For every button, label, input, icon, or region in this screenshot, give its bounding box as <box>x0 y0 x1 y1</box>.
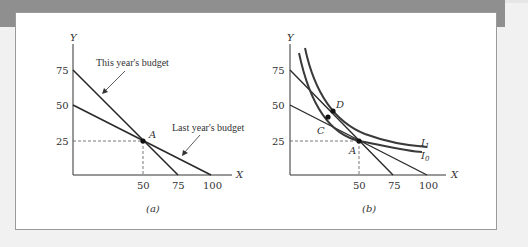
panel-b-caption: (b) <box>362 203 376 214</box>
point-c <box>325 114 330 119</box>
panel-b: Y X 75 50 25 50 75 100 A C D I1 I0 (b) <box>272 32 459 214</box>
last-year-budget-label: Last year's budget <box>172 122 245 133</box>
x-tick-100: 100 <box>419 180 438 191</box>
x-tick-75: 75 <box>388 180 401 191</box>
y-tick-75: 75 <box>272 65 285 76</box>
panel-a: Y X 75 50 25 50 75 100 A This year's bud… <box>56 32 245 214</box>
y-tick-25: 25 <box>56 136 69 147</box>
panel-a-caption: (a) <box>146 203 160 214</box>
point-d <box>330 108 335 113</box>
this-year-budget-label: This year's budget <box>96 57 169 68</box>
curve-i1-label: I1 <box>420 137 429 150</box>
y-tick-50: 50 <box>272 100 285 111</box>
y-axis-label: Y <box>70 32 78 43</box>
point-c-label: C <box>317 125 325 136</box>
point-a <box>356 138 361 143</box>
this-year-budget-line <box>73 70 178 175</box>
this-year-arrow <box>104 71 125 92</box>
point-a <box>140 138 145 143</box>
x-tick-50: 50 <box>353 180 366 191</box>
curve-i0-label: I0 <box>420 150 430 163</box>
point-a-label: A <box>148 129 156 140</box>
arrowhead-icon <box>182 150 188 156</box>
x-axis-label: X <box>235 169 244 180</box>
indifference-curve-i0 <box>299 53 422 152</box>
x-tick-50: 50 <box>137 180 150 191</box>
x-tick-75: 75 <box>172 180 185 191</box>
x-axis-label: X <box>450 169 459 180</box>
x-tick-100: 100 <box>203 180 222 191</box>
budget-diagram: Y X 75 50 25 50 75 100 A This year's bud… <box>0 0 528 247</box>
y-tick-25: 25 <box>272 136 285 147</box>
last-year-arrow <box>184 135 200 153</box>
y-tick-75: 75 <box>56 65 69 76</box>
point-a-label: A <box>348 145 356 156</box>
y-axis-label: Y <box>287 32 295 43</box>
y-tick-50: 50 <box>56 100 69 111</box>
point-d-label: D <box>335 99 344 110</box>
this-year-budget-line <box>290 70 393 175</box>
